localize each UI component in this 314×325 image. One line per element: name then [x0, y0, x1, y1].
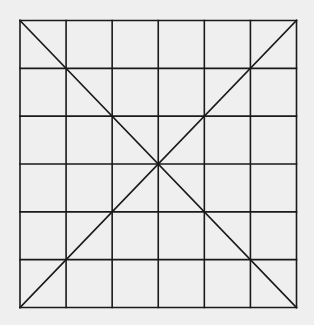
grid-diagram: [0, 0, 314, 325]
